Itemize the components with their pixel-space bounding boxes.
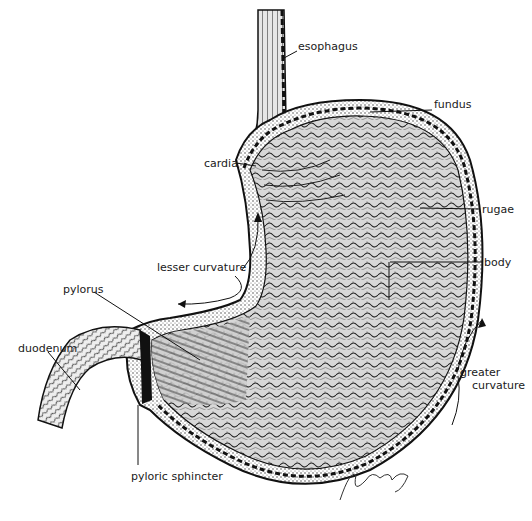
label-pylorus: pylorus: [63, 283, 104, 296]
label-lesser-curvature: lesser curvature: [157, 261, 246, 274]
label-fundus: fundus: [434, 98, 472, 111]
artist-signature: [340, 474, 408, 500]
label-pyloric-sphincter: pyloric sphincter: [131, 470, 223, 483]
label-duodenum: duodenum: [18, 342, 77, 355]
label-cardia: cardia: [204, 157, 238, 170]
label-body: body: [484, 256, 511, 269]
label-esophagus: esophagus: [298, 40, 358, 53]
label-greater-curvature-line2: curvature: [472, 379, 525, 392]
label-rugae: rugae: [482, 203, 514, 216]
stomach-illustration: [0, 0, 532, 521]
label-greater-curvature-line1: greater: [460, 366, 500, 379]
stomach-shape: [127, 100, 483, 484]
